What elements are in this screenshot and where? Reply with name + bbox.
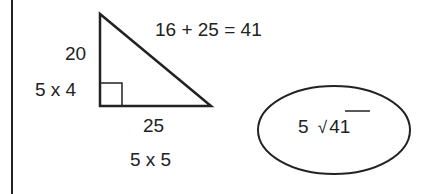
horizontal-leg-value: 25 <box>143 116 164 135</box>
vertical-leg-factored: 5 x 4 <box>35 80 76 99</box>
radical-icon: √ <box>318 118 327 137</box>
vertical-leg-value: 20 <box>65 44 86 63</box>
answer-expression: 5 √41 <box>298 117 350 136</box>
answer-coefficient: 5 <box>298 116 309 137</box>
right-angle-marker <box>100 83 122 106</box>
answer-radicand: 41 <box>329 116 350 137</box>
horizontal-leg-factored: 5 x 5 <box>130 150 171 169</box>
hypotenuse-equation: 16 + 25 = 41 <box>155 20 262 39</box>
